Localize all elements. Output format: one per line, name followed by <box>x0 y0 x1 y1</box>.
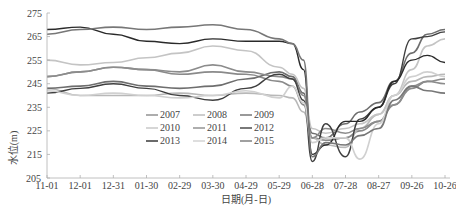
legend-item-2014: 2014 <box>193 135 227 146</box>
x-tick-label: 08-27 <box>367 180 390 191</box>
axes: 205215225235245255265275 11-0112-0112-31… <box>26 8 456 192</box>
x-axis-title: 日期(月-日) <box>221 194 271 206</box>
y-tick-label: 225 <box>27 125 42 136</box>
y-tick-label: 235 <box>27 102 42 113</box>
legend-label: 2010 <box>160 122 180 133</box>
legend-label: 2007 <box>160 109 180 120</box>
y-tick-label: 245 <box>27 78 42 89</box>
y-axis-title: 水位(m) <box>7 131 20 165</box>
legend-item-2011: 2011 <box>193 122 227 133</box>
legend-item-2012: 2012 <box>240 122 274 133</box>
legend-label: 2012 <box>254 122 274 133</box>
x-tick-label: 01-30 <box>135 180 158 191</box>
legend-item-2010: 2010 <box>146 122 180 133</box>
y-tick-label: 265 <box>27 31 42 42</box>
x-tick-label: 06-28 <box>301 180 324 191</box>
y-tick-label: 275 <box>27 8 42 19</box>
x-tick-label: 07-28 <box>334 180 357 191</box>
legend-label: 2015 <box>254 135 274 146</box>
series-line-2011 <box>47 65 445 138</box>
x-tick-label: 03-30 <box>201 180 224 191</box>
legend: 200720082009201020112012201320142015 <box>146 109 274 146</box>
series-line-2007 <box>47 67 445 140</box>
legend-label: 2014 <box>207 135 227 146</box>
y-tick-label: 215 <box>27 149 42 160</box>
legend-item-2008: 2008 <box>193 109 227 120</box>
legend-label: 2009 <box>254 109 274 120</box>
x-tick-group: 11-0112-0112-3101-3002-2903-3004-2905-29… <box>36 175 456 191</box>
legend-label: 2011 <box>207 122 227 133</box>
legend-item-2015: 2015 <box>240 135 274 146</box>
y-tick-label: 255 <box>27 55 42 66</box>
y-tick-group: 205215225235245255265275 <box>26 8 50 185</box>
legend-item-2007: 2007 <box>146 109 180 120</box>
x-tick-label: 12-31 <box>102 180 125 191</box>
x-tick-label: 11-01 <box>36 180 59 191</box>
water-level-chart: 205215225235245255265275 11-0112-0112-31… <box>0 0 456 212</box>
legend-item-2009: 2009 <box>240 109 274 120</box>
x-tick-label: 05-29 <box>267 180 290 191</box>
x-tick-label: 04-29 <box>234 180 257 191</box>
x-tick-label: 12-01 <box>68 180 91 191</box>
x-tick-label: 10-26 <box>433 180 456 191</box>
legend-label: 2013 <box>160 135 180 146</box>
x-tick-label: 09-26 <box>400 180 423 191</box>
x-tick-label: 02-29 <box>168 180 191 191</box>
legend-label: 2008 <box>207 109 227 120</box>
legend-item-2013: 2013 <box>146 135 180 146</box>
